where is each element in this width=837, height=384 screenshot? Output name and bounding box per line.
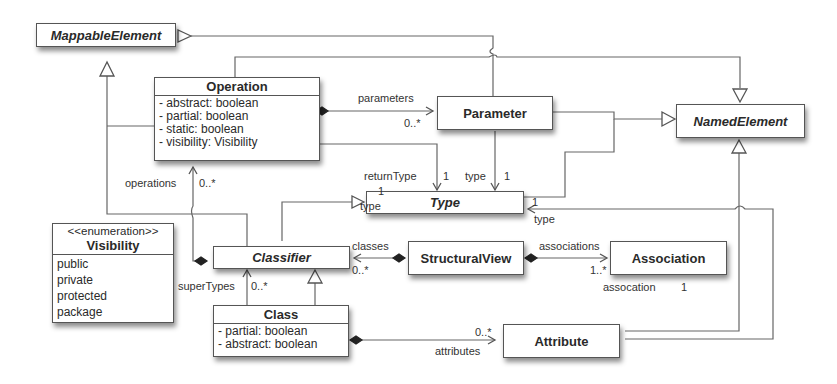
enum-name: Visibility xyxy=(53,238,173,253)
label-attr-type: type xyxy=(534,213,555,225)
class-association[interactable]: Association xyxy=(610,241,727,275)
enum-literal: public xyxy=(57,256,169,272)
class-named-element[interactable]: NamedElement xyxy=(676,104,805,138)
label-parameters-multiplicity: 0..* xyxy=(404,117,421,129)
label-super-types-multiplicity: 0..* xyxy=(251,280,268,292)
class-operation[interactable]: Operation - abstract: boolean - partial:… xyxy=(154,77,320,161)
class-mappable-element[interactable]: MappableElement xyxy=(36,23,176,47)
label-param-type: type xyxy=(465,170,486,182)
enum-literal: protected xyxy=(57,288,169,304)
class-name: MappableElement xyxy=(37,28,175,43)
attribute-item: - visibility: Visibility xyxy=(159,136,315,149)
enum-literals: public private protected package xyxy=(53,255,173,321)
class-name: Association xyxy=(611,251,726,266)
class-type[interactable]: Type xyxy=(366,191,524,214)
class-name: Attribute xyxy=(504,334,619,349)
label-return-type: returnType xyxy=(364,170,417,182)
class-name: Class xyxy=(214,306,348,324)
label-attributes-multiplicity: 0..* xyxy=(475,326,492,338)
attribute-list: - partial: boolean - abstract: boolean xyxy=(214,324,348,352)
enum-literal: private xyxy=(57,272,169,288)
label-associations-multiplicity: 1..* xyxy=(590,264,607,276)
label-operations: operations xyxy=(125,177,176,189)
label-operations-multiplicity: 0..* xyxy=(199,177,216,189)
label-classifier-type: type xyxy=(360,200,381,212)
label-associations: associations xyxy=(539,240,600,252)
label-association-end: assocation xyxy=(603,281,656,293)
class-name: Classifier xyxy=(214,250,349,265)
uml-diagram-canvas: MappableElement NamedElement Operation -… xyxy=(0,0,837,384)
label-super-types: superTypes xyxy=(178,280,235,292)
label-param-type-multiplicity: 1 xyxy=(504,170,510,182)
label-parameters: parameters xyxy=(358,92,414,104)
class-name: StructuralView xyxy=(409,251,523,266)
class-name: Type xyxy=(367,195,523,210)
class-name: Parameter xyxy=(438,106,552,121)
label-association-end-multiplicity: 1 xyxy=(681,281,687,293)
class-structural-view[interactable]: StructuralView xyxy=(408,241,524,275)
enum-visibility[interactable]: <<enumeration>> Visibility public privat… xyxy=(52,223,174,323)
attribute-item: - abstract: boolean xyxy=(218,338,344,351)
class-classifier[interactable]: Classifier xyxy=(213,246,350,269)
label-return-type-multiplicity: 1 xyxy=(443,170,449,182)
class-attribute[interactable]: Attribute xyxy=(503,324,620,358)
class-class[interactable]: Class - partial: boolean - abstract: boo… xyxy=(213,305,349,357)
enum-header: <<enumeration>> Visibility xyxy=(53,224,173,255)
label-attributes: attributes xyxy=(435,345,480,357)
label-classes-multiplicity: 0..* xyxy=(352,264,369,276)
class-parameter[interactable]: Parameter xyxy=(437,96,553,130)
label-attr-type-multiplicity: 1 xyxy=(532,196,538,208)
class-name: NamedElement xyxy=(677,114,804,129)
stereotype-label: <<enumeration>> xyxy=(53,225,173,238)
label-classifier-type-multiplicity: 1 xyxy=(378,185,384,197)
attribute-list: - abstract: boolean - partial: boolean -… xyxy=(155,96,319,150)
class-name: Operation xyxy=(155,78,319,96)
enum-literal: package xyxy=(57,304,169,320)
label-classes: classes xyxy=(352,240,389,252)
